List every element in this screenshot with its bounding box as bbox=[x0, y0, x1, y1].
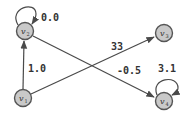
svg-text:3: 3 bbox=[166, 33, 169, 39]
svg-text:2: 2 bbox=[27, 31, 30, 37]
svg-text:v: v bbox=[160, 29, 165, 38]
node-v2: v 2 bbox=[17, 23, 34, 40]
edge-weight-v2-v4: -0.5 bbox=[117, 65, 141, 76]
svg-text:v: v bbox=[19, 94, 24, 103]
edge-weight-v1-v3: 33 bbox=[111, 41, 123, 52]
graph-canvas: 0.0 1.0 33 -0.5 3.1 v 1 v 2 v 3 v 4 bbox=[0, 0, 190, 113]
node-v3: v 3 bbox=[156, 25, 173, 42]
node-v4: v 4 bbox=[156, 93, 173, 110]
edge-weight-v2-v2: 0.0 bbox=[41, 12, 59, 23]
node-v1: v 1 bbox=[15, 90, 32, 107]
edge-v1-v2: 1.0 bbox=[23, 41, 46, 89]
svg-text:v: v bbox=[21, 27, 26, 36]
svg-text:4: 4 bbox=[166, 101, 169, 107]
edge-v4-v4: 3.1 bbox=[156, 63, 178, 95]
svg-text:v: v bbox=[160, 97, 165, 106]
svg-text:1: 1 bbox=[25, 98, 28, 104]
edge-weight-v1-v2: 1.0 bbox=[28, 63, 46, 74]
edge-weight-v4-v4: 3.1 bbox=[158, 63, 176, 74]
